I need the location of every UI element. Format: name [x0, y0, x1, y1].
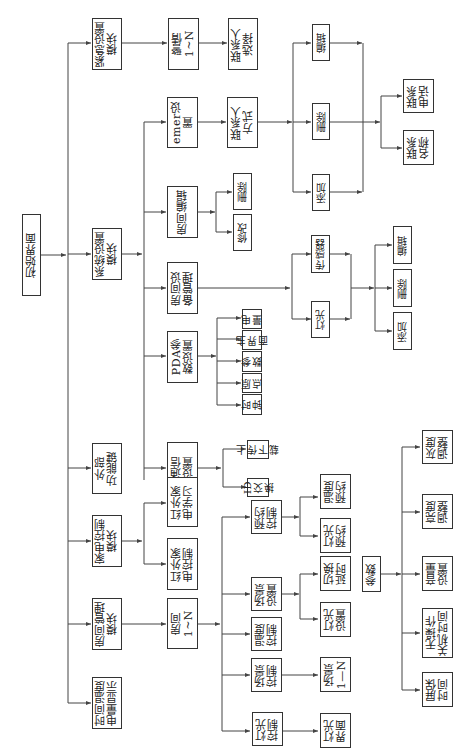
node-device-delete: 删除 [393, 269, 412, 307]
node-clock: 时 钟 [242, 394, 262, 415]
node-alarm: 警情 1~N [168, 18, 199, 70]
node-scene-settings: 场景 设置 [251, 577, 282, 611]
node-temp-schedule: 温度 预约 [320, 474, 351, 509]
node-gray-adjust: 灰度 调整 [422, 430, 453, 464]
node-params: 参数 [362, 556, 381, 592]
node-contact-select: 联系人 选择 [228, 18, 258, 70]
node-room-n: 房间 1~N [167, 598, 198, 649]
node-light-control: 灯光 控制 [252, 712, 283, 746]
node-ir-learning: 红外家 电学习 [167, 477, 198, 527]
node-system-module: 系统设置 模块 [92, 228, 122, 280]
node-emergency-module: 紧急设置 模块 [92, 18, 122, 70]
node-room-device-mgmt: 房间设 备管理 [167, 262, 198, 314]
node-schedule-control: 预约 控制 [251, 500, 282, 534]
node-switch-delay: 切换 延时 [320, 556, 351, 591]
node-sensor: 传感器 [311, 235, 330, 273]
node-edit-contact: 添加 [312, 174, 330, 211]
node-ir-control: 红外家 电控制 [167, 538, 198, 590]
node-light: 灯光 [311, 301, 330, 338]
node-scene-n: 场景 1—N [320, 657, 351, 692]
node-brightness-adjust: 亮度 调整 [422, 494, 453, 529]
node-room-edit: 房间编辑 [167, 186, 198, 238]
node-power: 电 量 [242, 309, 262, 329]
node-idle-shutdown: 无操作 关机时间 [422, 608, 453, 658]
node-contact-phone: 联系 电话 [403, 79, 434, 113]
node-add-contact: 编辑 [312, 24, 330, 61]
node-id-exchange: ID 交 换 [247, 478, 269, 497]
node-upload-download: 上 传 下 载 [247, 440, 269, 459]
node-contact-method: 联系人 方式 [227, 97, 258, 148]
node-temp-control: 温度 控制 [251, 617, 282, 651]
node-device-add: 添加 [393, 312, 412, 350]
node-room-delete: 删除 [233, 173, 252, 210]
node-initial-screen: 初始界面 [22, 214, 41, 296]
node-screensaver-time: 屏保 时间 [422, 672, 453, 707]
node-room-management: 房间管理 模块 [92, 598, 122, 650]
node-pda-params: PDA参 数设置 [167, 331, 198, 383]
node-appliance-module: 家电控制 模块 [92, 515, 122, 567]
node-main-ui: 主 界 面 [242, 330, 262, 350]
node-emer-setting: emer设置 [167, 97, 198, 148]
node-origin: 原 点 [242, 373, 262, 393]
node-external-keys: 外部 功能键 [92, 443, 122, 494]
flowchart-canvas: 初始界面 紧急设置 模块 系统设置 模块 外部 功能键 家电控制 模块 房间管理… [0, 0, 473, 756]
node-light-settings: 灯光 设置 [320, 602, 351, 637]
node-light-ui: 灯光 界面 [320, 713, 351, 748]
node-scene-control: 场景 控制 [251, 658, 282, 692]
node-contact-name: 联系 名称 [403, 130, 434, 165]
node-pda-param: 参 数 [242, 351, 262, 372]
node-delete-contact: 删除 [312, 103, 330, 140]
node-time-temp-display: 时间温度 电量显示 [92, 677, 122, 729]
node-light-schedule: 灯光 预约 [320, 518, 351, 553]
node-device-edit: 编辑 [393, 226, 412, 264]
node-volume-settings: 音量 设置 [422, 556, 453, 591]
node-room-modify: 修改 [233, 214, 252, 251]
